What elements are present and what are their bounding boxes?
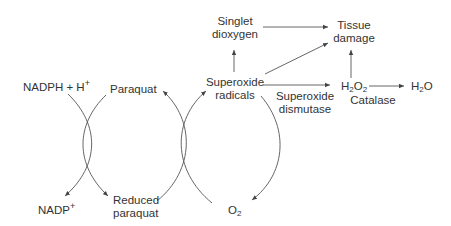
node-paraquat: Paraquat — [110, 83, 157, 96]
enzyme-superoxide-dismutase: Superoxide dismutase — [276, 90, 334, 116]
superoxide-line2: radicals — [206, 89, 264, 102]
o2-text: O — [228, 204, 237, 216]
arrow-paraquat-to-reduced — [83, 95, 108, 196]
h2o-o: O — [424, 80, 433, 92]
reduced-paraquat-line1: Reduced — [113, 194, 159, 207]
node-reduced-paraquat: Reduced paraquat — [113, 194, 159, 220]
nadph-superscript: + — [85, 78, 90, 88]
node-nadph: NADPH + H+ — [23, 81, 90, 94]
nadp-text: NADP — [38, 204, 70, 216]
tissue-damage-line2: damage — [333, 32, 375, 45]
paraquat-redox-cycle-diagram: Singlet dioxygen Tissue damage NADPH + H… — [0, 0, 451, 226]
enzyme-catalase: Catalase — [350, 94, 395, 107]
singlet-dioxygen-line1: Singlet — [212, 15, 258, 28]
superoxide-line1: Superoxide — [206, 76, 264, 89]
arrow-nadph-to-nadp — [65, 94, 92, 196]
node-singlet-dioxygen: Singlet dioxygen — [212, 15, 258, 41]
h2o2-o: O — [354, 80, 363, 92]
sod-line2: dismutase — [276, 103, 334, 116]
node-h2o2: H2O2 — [341, 80, 367, 93]
o2-subscript: 2 — [237, 209, 241, 218]
nadph-text: NADPH + H — [23, 81, 85, 93]
node-superoxide-radicals: Superoxide radicals — [206, 76, 264, 102]
nadp-superscript: + — [70, 201, 75, 211]
reduced-paraquat-line2: paraquat — [113, 207, 159, 220]
arrow-reduced-to-paraquat — [157, 91, 186, 201]
h2o2-sub2: 2 — [363, 85, 367, 94]
node-tissue-damage: Tissue damage — [333, 19, 375, 45]
sod-line1: Superoxide — [276, 90, 334, 103]
node-nadp: NADP+ — [38, 204, 75, 217]
arrow-superoxide-to-tissue — [265, 43, 328, 74]
node-o2: O2 — [228, 204, 241, 217]
tissue-damage-line1: Tissue — [333, 19, 375, 32]
node-h2o: H2O — [411, 80, 433, 93]
singlet-dioxygen-line2: dioxygen — [212, 28, 258, 41]
